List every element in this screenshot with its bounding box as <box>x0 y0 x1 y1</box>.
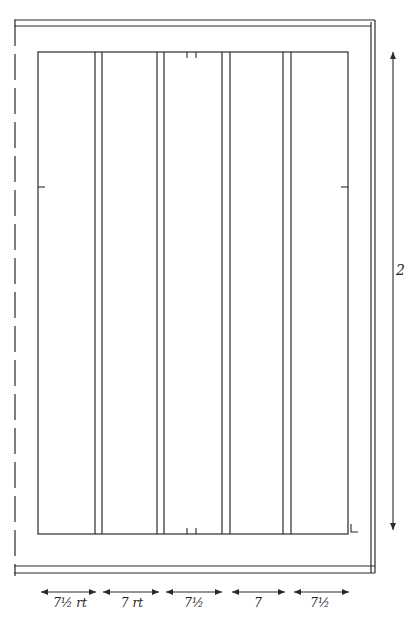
corner-mark <box>351 524 358 532</box>
width-label-5: 7½ <box>294 596 346 610</box>
alignment-ticks <box>38 52 358 534</box>
outer-frame <box>14 20 375 576</box>
height-dimension-label: 2 <box>396 262 405 278</box>
panel-diagram <box>0 0 410 619</box>
width-label-1: 7½ rt <box>44 596 96 610</box>
panel-dividers <box>95 52 291 534</box>
width-label-3: 7½ <box>168 596 220 610</box>
width-label-2: 7 rt <box>106 596 158 610</box>
width-label-4: 7 <box>232 596 284 610</box>
inner-panel <box>38 52 348 534</box>
